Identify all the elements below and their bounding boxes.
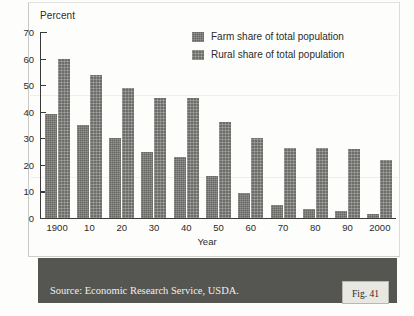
- bar-rural-20: [122, 88, 134, 218]
- y-axis-title: Percent: [40, 10, 75, 21]
- figure-number-badge: Fig. 41: [342, 281, 389, 304]
- y-tick-label-0: 0: [16, 213, 34, 224]
- bar-farm-1900: [45, 114, 57, 218]
- bar-group: [77, 32, 102, 218]
- x-tick-label-1900: 1900: [40, 222, 74, 233]
- legend-item-rural: Rural share of total population: [192, 47, 344, 62]
- bar-rural-10: [90, 75, 102, 218]
- figure-border-top: [28, 2, 400, 3]
- bar-farm-40: [174, 157, 186, 218]
- figure-container: Percent 010203040506070 1900102030405060…: [0, 0, 414, 316]
- x-axis-tick-labels: 19001020304050607080902000: [41, 222, 396, 236]
- source-note: Source: Economic Research Service, USDA.: [50, 285, 239, 296]
- y-axis-tick-labels: 010203040506070: [14, 32, 34, 218]
- bar-rural-90: [348, 149, 360, 218]
- y-tick-label-30: 30: [16, 133, 34, 144]
- bar-farm-70: [271, 205, 283, 218]
- x-tick-label-40: 40: [169, 222, 203, 233]
- bar-farm-10: [77, 125, 89, 218]
- figure-border-bottom: [28, 256, 400, 257]
- x-tick-label-2000: 2000: [363, 222, 397, 233]
- figure-number-label: Fig. 41: [352, 289, 379, 299]
- bar-farm-90: [335, 211, 347, 218]
- bar-group: [367, 32, 392, 218]
- bar-farm-30: [141, 152, 153, 218]
- y-tick-label-10: 10: [16, 186, 34, 197]
- x-tick-label-80: 80: [298, 222, 332, 233]
- bar-rural-80: [316, 148, 328, 218]
- bar-rural-1900: [58, 59, 70, 218]
- bar-farm-20: [109, 138, 121, 218]
- x-axis-title: Year: [0, 236, 414, 247]
- x-tick-label-90: 90: [331, 222, 365, 233]
- y-tick-label-40: 40: [16, 106, 34, 117]
- bar-farm-80: [303, 209, 315, 218]
- bar-farm-60: [238, 193, 250, 218]
- bar-rural-2000: [380, 160, 392, 218]
- legend-swatch-farm: [192, 32, 204, 42]
- x-tick-label-60: 60: [234, 222, 268, 233]
- bar-group: [141, 32, 166, 218]
- bar-rural-40: [187, 98, 199, 218]
- chart-legend: Farm share of total populationRural shar…: [192, 29, 344, 65]
- legend-label-farm: Farm share of total population: [211, 31, 344, 42]
- bar-farm-2000: [367, 214, 379, 218]
- x-tick-label-50: 50: [202, 222, 236, 233]
- footer-band: Source: Economic Research Service, USDA.…: [38, 258, 397, 303]
- x-tick-label-30: 30: [137, 222, 171, 233]
- x-tick-label-10: 10: [72, 222, 106, 233]
- bar-farm-50: [206, 176, 218, 219]
- bar-rural-70: [284, 148, 296, 218]
- bar-rural-30: [154, 98, 166, 218]
- y-tick-label-50: 50: [16, 80, 34, 91]
- legend-swatch-rural: [192, 50, 204, 60]
- x-tick-label-20: 20: [105, 222, 139, 233]
- legend-label-rural: Rural share of total population: [211, 49, 344, 60]
- bar-rural-60: [251, 138, 263, 218]
- bar-group: [45, 32, 70, 218]
- x-axis-line: [40, 218, 396, 219]
- bar-group: [109, 32, 134, 218]
- y-tick-label-70: 70: [16, 27, 34, 38]
- figure-border-right: [399, 2, 400, 257]
- y-tick-label-60: 60: [16, 53, 34, 64]
- legend-item-farm: Farm share of total population: [192, 29, 344, 44]
- x-tick-label-70: 70: [266, 222, 300, 233]
- y-tick-label-20: 20: [16, 159, 34, 170]
- bar-rural-50: [219, 122, 231, 218]
